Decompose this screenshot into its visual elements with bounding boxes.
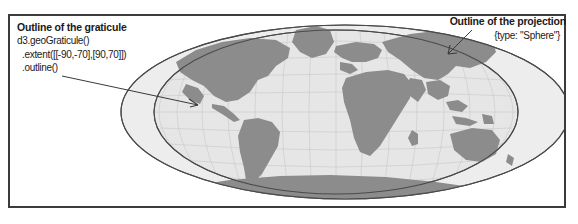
graticule-code-line-3: .outline() (17, 61, 127, 75)
graticule-annotation-title: Outline of the graticule (17, 21, 127, 34)
annotation-projection: Outline of the projection {type: "Sphere… (398, 15, 566, 43)
graticule-code-line-1: d3.geoGraticule() (17, 34, 127, 48)
figure-root: Outline of the graticule d3.geoGraticule… (0, 0, 578, 224)
projection-annotation-title: Outline of the projection (398, 15, 566, 28)
projection-annotation-sub: {type: "Sphere"} (398, 28, 566, 43)
graticule-code-line-2: .extent([[-90,-70],[90,70]]) (17, 48, 127, 62)
annotation-graticule: Outline of the graticule d3.geoGraticule… (17, 21, 127, 75)
